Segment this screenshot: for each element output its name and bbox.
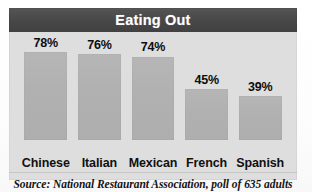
bar-value-label-chinese: 78%: [24, 37, 67, 50]
bar-group-italian: 76%: [78, 32, 121, 156]
bar-value-label-italian: 76%: [78, 39, 121, 52]
category-label-french: French: [180, 156, 234, 171]
category-label-italian: Italian: [73, 156, 127, 171]
category-axis: ChineseItalianMexicanFrenchSpanish: [9, 156, 297, 173]
source-note-container: Source: National Restaurant Association,…: [9, 173, 297, 192]
category-label-mexican: Mexican: [126, 156, 180, 171]
bar-spanish: [239, 96, 282, 140]
source-note: Source: National Restaurant Association,…: [13, 179, 292, 191]
bar-group-french: 45%: [185, 32, 228, 156]
chart-panel: Eating Out 78%76%74%45%39% ChineseItalia…: [9, 8, 297, 180]
category-label-spanish: Spanish: [233, 156, 287, 171]
bar-group-chinese: 78%: [24, 32, 67, 156]
bar-italian: [78, 54, 121, 140]
bar-value-label-mexican: 74%: [132, 41, 175, 54]
category-label-chinese: Chinese: [19, 156, 73, 171]
bar-chinese: [24, 52, 67, 140]
bar-group-mexican: 74%: [132, 32, 175, 156]
chart-title: Eating Out: [115, 13, 190, 28]
bar-value-label-french: 45%: [185, 74, 228, 87]
bar-value-label-spanish: 39%: [239, 81, 282, 94]
bar-french: [185, 89, 228, 140]
figure-container: Eating Out 78%76%74%45%39% ChineseItalia…: [0, 0, 312, 192]
plot-area: 78%76%74%45%39%: [9, 32, 297, 156]
chart-title-bar: Eating Out: [9, 8, 297, 32]
bar-group-spanish: 39%: [239, 32, 282, 156]
bar-mexican: [132, 57, 175, 140]
